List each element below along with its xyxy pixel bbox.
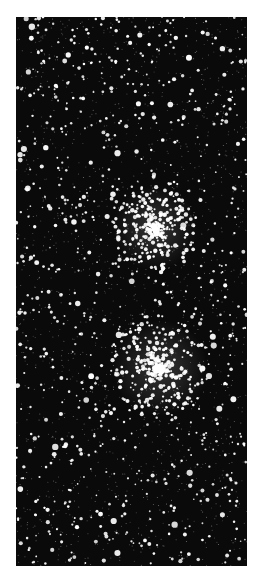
- star-field-canvas: [16, 17, 247, 566]
- star-field-photo: Black-and-white photograph of a dense st…: [16, 17, 247, 566]
